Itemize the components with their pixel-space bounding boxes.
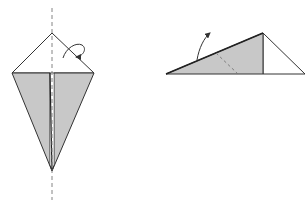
triangle-white-flap (263, 33, 305, 74)
origami-diagram (0, 0, 306, 211)
kite-left-colored-flap (12, 73, 52, 171)
kite-top-white-flap (12, 33, 94, 73)
step-2-folded-triangle (166, 33, 305, 74)
kite-right-colored-flap (52, 73, 94, 171)
step-1-kite (12, 8, 94, 200)
